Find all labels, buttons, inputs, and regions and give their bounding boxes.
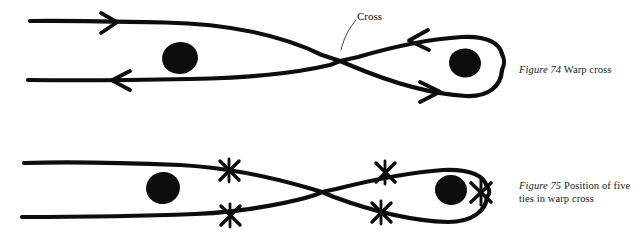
caption-figure-74: Figure 74 Warp cross [519,64,637,77]
lower-warp-thread-75 [22,192,487,222]
figure-74-title: Warp cross [564,64,612,75]
right-warp-blob-75 [434,174,468,207]
lower-warp-thread-74 [28,61,502,96]
tie-lower-left [221,204,240,227]
figure-74-number: Figure 74 [519,64,561,75]
left-warp-blob-74 [160,40,200,77]
figure-75-drawing [22,159,491,227]
upper-warp-thread-75 [24,163,487,192]
cross-label: Cross [357,10,382,22]
figure-74-drawing [28,13,504,102]
right-warp-blob-74 [448,47,483,79]
figure-75-number: Figure 75 [519,180,561,191]
tie-upper-right [376,161,395,184]
loop-end-74 [502,54,504,70]
left-warp-blob-75 [143,169,182,206]
upper-warp-thread-74 [30,21,502,61]
cross-leader-line [341,20,356,50]
figure-page: Cross Figure 74 Warp cross Figure 75 Pos… [0,0,638,232]
caption-figure-75: Figure 75 Position of five ties in warp … [519,180,637,205]
